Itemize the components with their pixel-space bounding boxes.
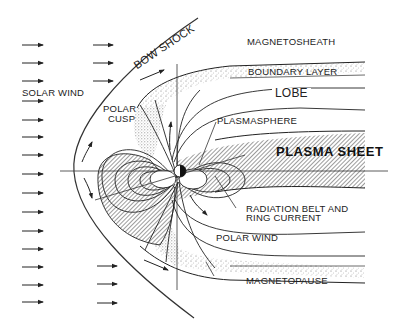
label-magnetopause: MAGNETOPAUSE xyxy=(246,276,328,286)
label-plasmasphere: PLASMASPHERE xyxy=(217,116,297,126)
label-magnetosheath: MAGNETOSHEATH xyxy=(247,37,335,47)
label-polar-wind: POLAR WIND xyxy=(216,233,278,243)
label-solar-wind: SOLAR WIND xyxy=(22,88,84,98)
magnetosphere-diagram: BOW SHOCK MAGNETOSHEATH SOLAR WIND BOUND… xyxy=(0,0,406,335)
dayside-magnetosphere xyxy=(98,154,175,245)
label-boundary-layer: BOUNDARY LAYER xyxy=(248,67,337,77)
label-polar-cusp-2: CUSP xyxy=(108,114,135,124)
label-radiation-belt-2: RING CURRENT xyxy=(246,213,321,223)
diagram-graphic xyxy=(0,0,406,335)
label-lobe: LOBE xyxy=(272,88,311,98)
label-plasma-sheet: PLASMA SHEET xyxy=(276,147,383,157)
